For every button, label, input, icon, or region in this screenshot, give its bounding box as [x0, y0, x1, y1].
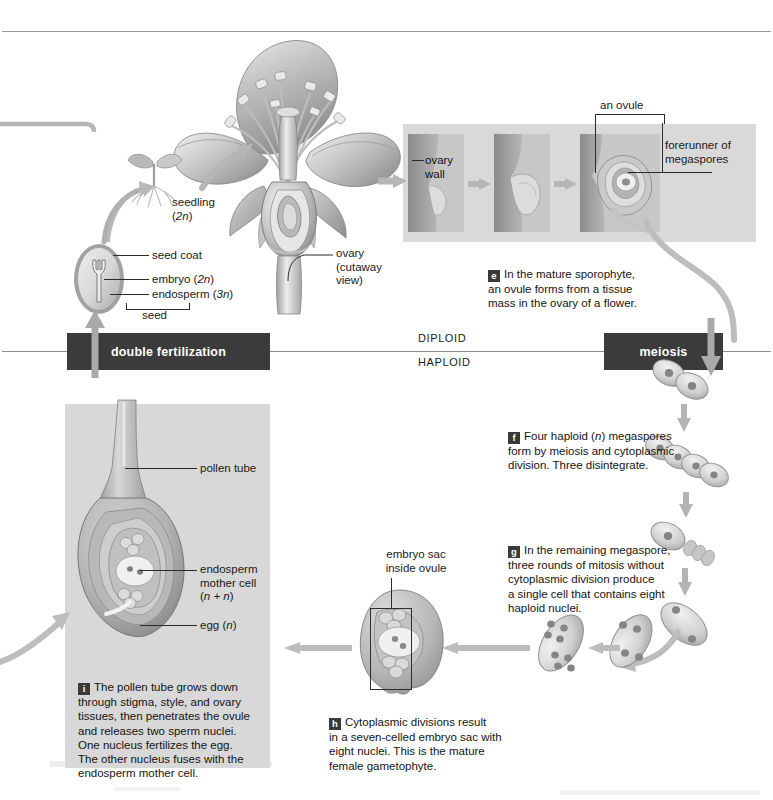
label-an-ovule: an ovule: [600, 99, 643, 113]
label-endosperm-mother-cell: endospermmother cell(n + n): [200, 563, 282, 604]
label-ovary-wall: ovarywall: [425, 154, 453, 181]
figure-canvas: ovary (cutaway view) seed coat embryo (2…: [0, 0, 773, 800]
ovule-stage-3: [580, 134, 660, 232]
scan-artifact-bar-2: [115, 787, 180, 791]
banner-double-fertilization-label: double fertilization: [111, 345, 226, 359]
label-seedling: seedling(2n): [172, 196, 215, 223]
ovule-stage-1: [408, 134, 464, 232]
caption-step-g-text: In the remaining megaspore,three rounds …: [508, 544, 670, 614]
cycle-line-top-left: [0, 118, 96, 134]
caption-step-i: iThe pollen tube grows downthrough stigm…: [78, 666, 264, 780]
arrow-up-to-flower: [84, 310, 106, 380]
ovule-stage-2: [494, 134, 550, 232]
label-pollen-tube: pollen tube: [200, 462, 256, 476]
label-embryo-sac: embryo sacinside ovule: [361, 548, 471, 575]
caption-step-i-text: The pollen tube grows downthrough stigma…: [78, 681, 250, 779]
step-letter-chip-i: i: [78, 683, 90, 695]
label-embryo: embryo (2n): [152, 273, 214, 287]
label-ovary: ovary (cutaway view): [336, 247, 416, 288]
step-letter-chip-f: f: [508, 432, 520, 444]
step-letter-chip-g: g: [508, 546, 520, 558]
an-ovule-leg-left: [595, 123, 596, 173]
arrow-ovule-2-3: [554, 176, 578, 192]
pollen-tube-and-ovule-illustration: [72, 400, 202, 660]
forerunner-leader: [628, 172, 712, 173]
embryo-sac-box: [370, 608, 412, 690]
step-letter-chip-h: h: [329, 718, 341, 730]
cell-eight-nuclei: [524, 608, 598, 678]
label-haploid: HAPLOID: [418, 356, 471, 368]
arrow-seedling-to-flower: [198, 140, 254, 192]
an-ovule-leg-right: [662, 123, 663, 173]
an-ovule-bracket-icon: [595, 114, 665, 124]
label-seed: seed: [142, 309, 167, 323]
embryo-leader: [104, 279, 149, 280]
egg-leader: [140, 625, 197, 626]
pollen-tube-leader: [125, 468, 197, 469]
caption-step-g: gIn the remaining megaspore,three rounds…: [508, 529, 688, 615]
label-forerunner-of-megaspores: forerunner ofmegaspores: [665, 139, 770, 166]
arrow-into-fertilization-panel: [0, 608, 72, 668]
caption-step-f: fFour haploid (n) megasporesform by meio…: [508, 415, 688, 473]
ovary-wall-leader: [412, 160, 424, 161]
arrow-eight-nuclei-to-embryo-sac: [440, 640, 530, 656]
seed-coat-leader: [113, 255, 149, 256]
arrow-ovule-1-2: [468, 176, 492, 192]
step-letter-chip-e: e: [488, 270, 500, 282]
label-egg: egg (n): [200, 619, 236, 633]
caption-step-e: eIn the mature sporophyte,an ovule forms…: [488, 253, 656, 311]
connector-ovule-to-meiosis: [636, 222, 746, 342]
arrow-seed-to-seedling: [96, 180, 156, 246]
caption-step-h-text: Cytoplasmic divisions resultin a seven-c…: [329, 716, 502, 771]
endosperm-leader: [110, 294, 149, 295]
label-diploid: DIPLOID: [418, 332, 466, 344]
caption-step-e-text: In the mature sporophyte,an ovule forms …: [488, 268, 637, 309]
caption-step-h: hCytoplasmic divisions resultin a seven-…: [329, 701, 514, 773]
endosperm-mother-cell-leader: [140, 570, 197, 571]
arrow-embryo-sac-to-fertilization: [282, 640, 352, 656]
label-seed-coat: seed coat: [152, 249, 202, 263]
arrow-flower-to-plate: [378, 172, 408, 190]
embryo-sac-leader: [391, 578, 392, 608]
ovary-leader-line: [286, 248, 334, 282]
caption-step-f-text: Four haploid (n) megasporesform by meios…: [508, 430, 674, 471]
label-endosperm: endosperm (3n): [152, 288, 233, 302]
scan-artifact-bar-3: [560, 790, 760, 795]
